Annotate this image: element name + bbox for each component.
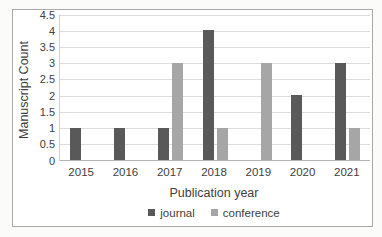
y-tick-label: 3.5 bbox=[13, 41, 55, 54]
x-tick-label: 2015 bbox=[56, 166, 106, 178]
bar-journal-2021 bbox=[335, 63, 346, 160]
gridline bbox=[60, 144, 370, 145]
y-tick-label: 1 bbox=[13, 122, 55, 135]
y-tick-label: 0.5 bbox=[13, 138, 55, 151]
bar-conference-2018 bbox=[217, 128, 228, 160]
y-tick-label: 0 bbox=[13, 155, 55, 168]
legend: journalconference bbox=[59, 205, 369, 220]
y-tick-label: 2 bbox=[13, 90, 55, 103]
bar-journal-2016 bbox=[114, 128, 125, 160]
bar-journal-2020 bbox=[291, 95, 302, 160]
x-axis-title: Publication year bbox=[59, 186, 369, 200]
gridline bbox=[60, 31, 370, 32]
gridline bbox=[60, 63, 370, 64]
bar-chart: Manuscript Count 00.511.522.533.544.5 20… bbox=[12, 9, 373, 227]
gridline bbox=[60, 15, 370, 16]
x-tick-label: 2018 bbox=[189, 166, 239, 178]
x-tick-label: 2019 bbox=[233, 166, 283, 178]
x-axis-line bbox=[60, 160, 370, 161]
gridline bbox=[60, 47, 370, 48]
legend-item-journal: journal bbox=[148, 207, 195, 219]
gridline bbox=[60, 96, 370, 97]
legend-label: conference bbox=[223, 207, 280, 219]
gridline bbox=[60, 128, 370, 129]
bar-conference-2021 bbox=[349, 128, 360, 160]
bar-journal-2017 bbox=[158, 128, 169, 160]
bar-journal-2018 bbox=[203, 30, 214, 160]
x-tick-label: 2020 bbox=[278, 166, 328, 178]
legend-label: journal bbox=[160, 207, 195, 219]
y-tick-label: 1.5 bbox=[13, 106, 55, 119]
gridline bbox=[60, 79, 370, 80]
legend-swatch-conference bbox=[211, 209, 218, 216]
legend-item-conference: conference bbox=[211, 207, 280, 219]
bar-conference-2019 bbox=[261, 63, 272, 160]
plot-area bbox=[59, 15, 370, 161]
x-tick-label: 2017 bbox=[145, 166, 195, 178]
y-tick-label: 4.5 bbox=[13, 9, 55, 22]
y-tick-label: 4 bbox=[13, 25, 55, 38]
y-axis-tick-labels: 00.511.522.533.544.5 bbox=[13, 15, 55, 161]
x-tick-label: 2021 bbox=[322, 166, 372, 178]
bar-journal-2015 bbox=[70, 128, 81, 160]
x-tick-label: 2016 bbox=[100, 166, 150, 178]
y-tick-label: 2.5 bbox=[13, 73, 55, 86]
x-axis-tick-labels: 2015201620172018201920202021 bbox=[59, 166, 369, 180]
y-tick-label: 3 bbox=[13, 57, 55, 70]
gridline bbox=[60, 112, 370, 113]
legend-swatch-journal bbox=[148, 209, 155, 216]
bar-conference-2017 bbox=[172, 63, 183, 160]
